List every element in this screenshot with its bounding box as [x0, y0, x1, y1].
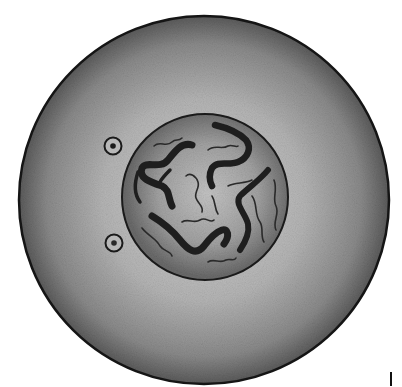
- centriole-top: [105, 138, 122, 155]
- nucleus: [122, 114, 288, 280]
- centriole-bottom: [106, 235, 123, 252]
- cell-diagram: [0, 0, 402, 387]
